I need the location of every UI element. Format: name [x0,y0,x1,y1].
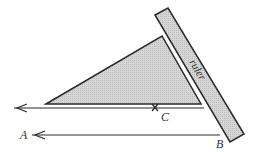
line-ab [32,131,220,139]
point-c-label: C [161,110,170,124]
point-b-label: B [216,137,224,151]
point-a-label: A [19,128,28,142]
diagram-canvas: ruler C A B [0,0,259,152]
parallel-line-through-c [14,104,204,112]
